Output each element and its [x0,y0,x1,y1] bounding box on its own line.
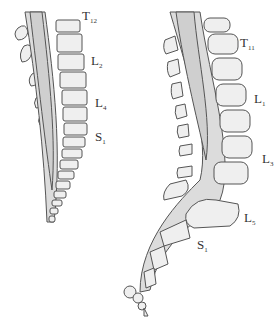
label-l3-right: L3 [262,152,273,168]
label-l1-right: L1 [254,92,265,108]
label-t11-right: T11 [240,36,255,52]
label-l4-left: L4 [95,96,106,112]
left-spine [15,12,87,222]
right-spine [124,12,252,316]
label-t12-left: T12 [82,9,97,25]
label-s1-left: S1 [95,130,106,146]
label-s1-right: S1 [197,238,208,254]
label-l5-right: L5 [244,211,255,227]
spine-diagram [0,0,275,318]
label-l2-left: L2 [91,54,102,70]
